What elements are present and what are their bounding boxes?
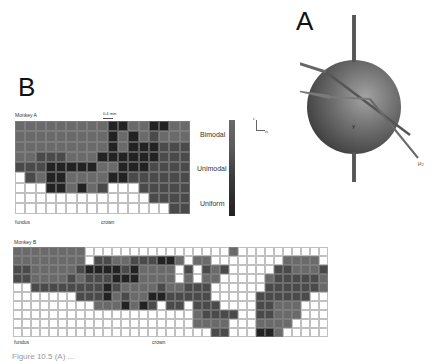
grid-cell	[292, 274, 301, 283]
grid-cell	[49, 283, 58, 292]
grid-cell	[220, 283, 229, 292]
grid-cell	[193, 292, 202, 301]
grid-cell	[112, 328, 121, 337]
panel-b-label: B	[18, 72, 35, 103]
grid-cell	[169, 183, 179, 193]
orientation-x-label: zs	[265, 130, 268, 134]
grid-cell	[97, 172, 107, 182]
grid-cell	[238, 256, 247, 265]
grid-cell	[67, 274, 76, 283]
grid-cell	[85, 265, 94, 274]
grid-cell	[211, 247, 220, 256]
grid-cell	[77, 142, 87, 152]
grid-cell	[77, 131, 87, 141]
grid-cell	[256, 301, 265, 310]
grid-cell	[175, 328, 184, 337]
legend-unimodal: Unimodal	[197, 165, 227, 172]
grid-cell	[58, 265, 67, 274]
grid-cell	[67, 256, 76, 265]
grid-cell	[274, 292, 283, 301]
grid-cell	[56, 162, 66, 172]
grid-cell	[31, 292, 40, 301]
grid-cell	[256, 319, 265, 328]
grid-cell	[193, 265, 202, 274]
grid-cell	[229, 301, 238, 310]
grid-cell	[159, 121, 169, 131]
grid-cell	[238, 265, 247, 274]
grid-cell	[256, 247, 265, 256]
grid-cell	[169, 152, 179, 162]
grid-cell	[103, 319, 112, 328]
grid-cell	[184, 310, 193, 319]
grid-cell	[22, 310, 31, 319]
grid-cell	[202, 319, 211, 328]
grid-cell	[139, 256, 148, 265]
grid-cell	[193, 310, 202, 319]
grid-cell	[58, 256, 67, 265]
grid-cell	[130, 256, 139, 265]
grid-cell	[40, 310, 49, 319]
grid-cell	[265, 274, 274, 283]
grid-cell	[292, 292, 301, 301]
grid-cell	[56, 203, 66, 213]
grid-cell	[94, 292, 103, 301]
grid-cell	[247, 274, 256, 283]
grid-cell	[67, 310, 76, 319]
grid-cell	[94, 319, 103, 328]
grid-cell	[256, 328, 265, 337]
grid-cell	[184, 256, 193, 265]
grid-cell	[49, 256, 58, 265]
grid-cell	[85, 256, 94, 265]
grid-cell	[139, 152, 149, 162]
grid-cell	[202, 301, 211, 310]
grid-cell	[310, 283, 319, 292]
grid-cell	[274, 265, 283, 274]
grid-cell	[211, 292, 220, 301]
grid-cell	[121, 292, 130, 301]
grid-cell	[148, 301, 157, 310]
grid-cell	[121, 319, 130, 328]
grid-cell	[202, 328, 211, 337]
grid-cell	[97, 162, 107, 172]
grid-cell	[13, 319, 22, 328]
grid-cell	[118, 203, 128, 213]
monkey-b-title: Monkey B	[14, 239, 36, 245]
grid-cell	[130, 283, 139, 292]
grid-cell	[49, 265, 58, 274]
grid-cell	[128, 162, 138, 172]
grid-cell	[130, 301, 139, 310]
grid-cell	[220, 301, 229, 310]
grid-cell	[40, 256, 49, 265]
grid-cell	[87, 183, 97, 193]
grid-cell	[66, 152, 76, 162]
grid-cell	[49, 274, 58, 283]
grid-cell	[46, 131, 56, 141]
grid-cell	[149, 183, 159, 193]
grid-cell	[25, 193, 35, 203]
grid-cell	[265, 319, 274, 328]
grid-cell	[46, 203, 56, 213]
grid-cell	[229, 292, 238, 301]
grid-cell	[265, 247, 274, 256]
grid-cell	[159, 193, 169, 203]
grid-cell	[66, 131, 76, 141]
grid-cell	[159, 152, 169, 162]
grid-cell	[238, 319, 247, 328]
grid-cell	[94, 301, 103, 310]
grid-cell	[112, 265, 121, 274]
grid-cell	[85, 319, 94, 328]
grid-cell	[180, 183, 190, 193]
grid-cell	[292, 310, 301, 319]
grid-cell	[149, 162, 159, 172]
grid-cell	[46, 142, 56, 152]
grid-cell	[36, 183, 46, 193]
grid-cell	[118, 183, 128, 193]
grid-cell	[108, 121, 118, 131]
grid-cell	[97, 193, 107, 203]
grid-cell	[15, 193, 25, 203]
grid-cell	[112, 274, 121, 283]
grid-cell	[184, 328, 193, 337]
grid-cell	[169, 203, 179, 213]
grid-cell	[301, 292, 310, 301]
grid-cell	[157, 328, 166, 337]
